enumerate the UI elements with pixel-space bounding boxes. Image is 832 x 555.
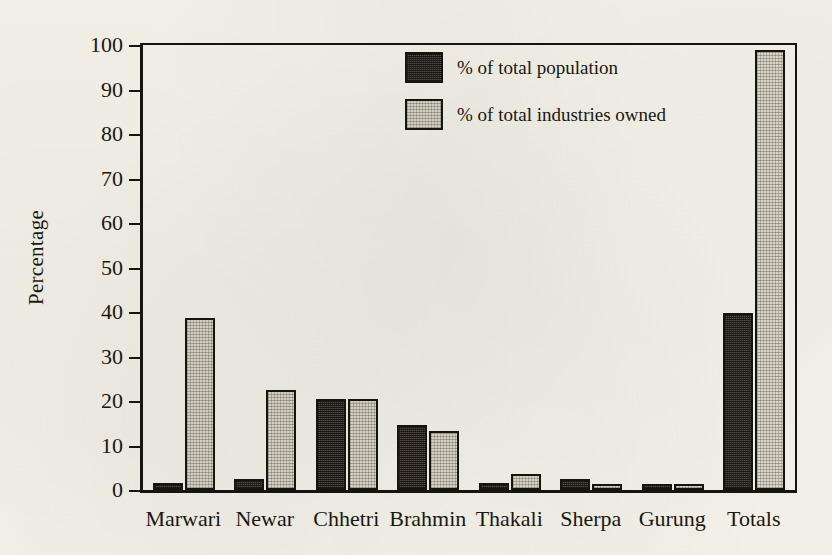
- bar-group-sherpa: [551, 479, 633, 490]
- x-axis-label-sherpa: Sherpa: [560, 506, 621, 532]
- y-axis-tick-label-70: 70: [63, 166, 123, 192]
- bar-newar-series-1: [234, 479, 264, 490]
- x-axis-label-brahmin: Brahmin: [389, 506, 466, 532]
- y-axis-tick-50: [129, 268, 143, 270]
- bar-chart-figure: Percentage 0102030405060708090100 % of t…: [0, 0, 832, 555]
- bar-group-thakali: [469, 474, 551, 490]
- bar-group-gurung: [632, 484, 714, 490]
- x-axis-label-chhetri: Chhetri: [313, 506, 379, 532]
- y-axis-tick-70: [129, 179, 143, 181]
- bar-totals-series-1: [723, 313, 753, 490]
- bar-group-totals: [714, 50, 796, 490]
- y-axis-tick-label-80: 80: [63, 121, 123, 147]
- y-axis-tick-label-0: 0: [63, 477, 123, 503]
- y-axis-tick-30: [129, 357, 143, 359]
- y-axis-tick-60: [129, 223, 143, 225]
- chart-legend: % of total population% of total industri…: [405, 52, 666, 130]
- bar-chhetri-series-2: [348, 399, 378, 490]
- y-axis-tick-label-50: 50: [63, 255, 123, 281]
- x-axis-label-marwari: Marwari: [145, 506, 221, 532]
- bar-brahmin-series-1: [397, 425, 427, 490]
- bar-brahmin-series-2: [429, 431, 459, 490]
- y-axis-tick-label-60: 60: [63, 210, 123, 236]
- x-axis-label-thakali: Thakali: [476, 506, 543, 532]
- bar-gurung-series-1: [642, 484, 672, 490]
- bar-sherpa-series-2: [592, 484, 622, 490]
- y-axis-tick-label-30: 30: [63, 344, 123, 370]
- bar-thakali-series-2: [511, 474, 541, 490]
- bar-group-newar: [225, 390, 307, 490]
- bar-group-brahmin: [388, 425, 470, 490]
- legend-swatch-light: [405, 99, 443, 130]
- bar-totals-series-2: [755, 50, 785, 490]
- bar-sherpa-series-1: [560, 479, 590, 490]
- bar-thakali-series-1: [479, 483, 509, 490]
- y-axis-tick-label-10: 10: [63, 433, 123, 459]
- y-axis-tick-40: [129, 312, 143, 314]
- bar-marwari-series-2: [185, 318, 215, 490]
- y-axis-tick-label-40: 40: [63, 299, 123, 325]
- y-axis-tick-label-20: 20: [63, 388, 123, 414]
- bar-gurung-series-2: [674, 484, 704, 490]
- y-axis-tick-90: [129, 90, 143, 92]
- x-axis-label-newar: Newar: [235, 506, 294, 532]
- legend-swatch-dark: [405, 52, 443, 83]
- y-axis-title-text: Percentage: [25, 210, 50, 305]
- bar-newar-series-2: [266, 390, 296, 490]
- y-axis-tick-label-90: 90: [63, 77, 123, 103]
- legend-item-1: % of total population: [405, 52, 666, 83]
- x-axis-label-gurung: Gurung: [639, 506, 706, 532]
- bar-group-chhetri: [306, 399, 388, 490]
- legend-item-2: % of total industries owned: [405, 99, 666, 130]
- y-axis-tick-20: [129, 401, 143, 403]
- bar-chhetri-series-1: [316, 399, 346, 490]
- y-axis-tick-label-100: 100: [63, 32, 123, 58]
- legend-label-2: % of total industries owned: [457, 104, 666, 126]
- y-axis-title: Percentage: [14, 0, 60, 555]
- x-axis-label-totals: Totals: [727, 506, 780, 532]
- bar-group-marwari: [143, 318, 225, 490]
- y-axis-tick-100: [129, 45, 143, 47]
- y-axis-tick-0: [129, 490, 143, 492]
- bar-marwari-series-1: [153, 483, 183, 490]
- legend-label-1: % of total population: [457, 57, 618, 79]
- y-axis-tick-80: [129, 134, 143, 136]
- y-axis-tick-10: [129, 446, 143, 448]
